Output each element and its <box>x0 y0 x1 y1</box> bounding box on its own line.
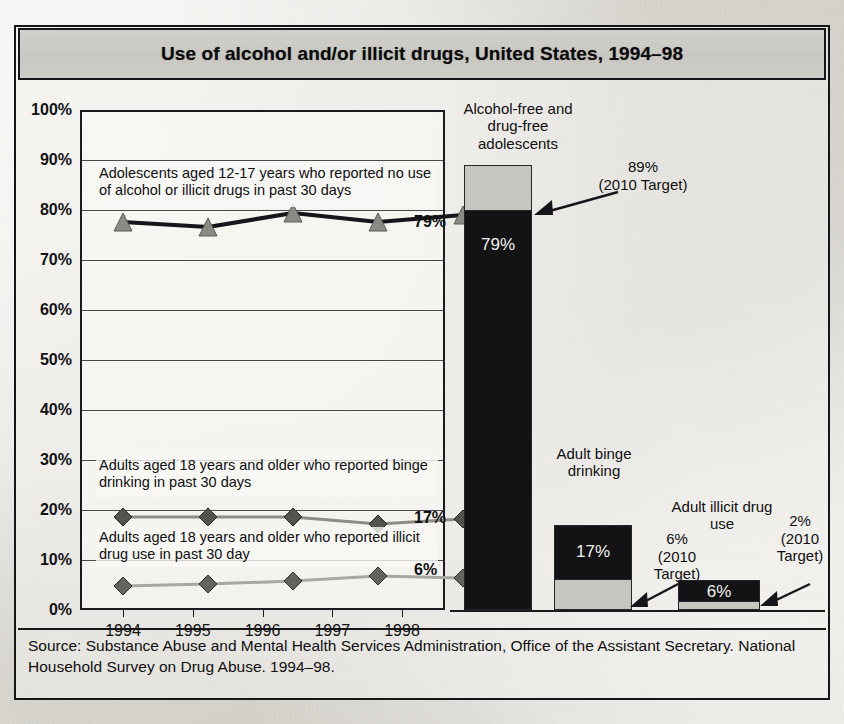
bar-caption-illicit: Adult illicit drug use <box>670 498 774 533</box>
bar-binge-value: 17% <box>554 525 632 580</box>
bar-illicit-target-value: 2% <box>764 512 836 530</box>
annotation-illicit: Adults aged 18 years and older who repor… <box>96 527 438 567</box>
marker-adolescent-1995 <box>199 218 217 236</box>
marker-illicit-1994 <box>114 577 132 595</box>
y-axis-label-0: 0% <box>2 601 72 619</box>
annotation-binge-text: Adults aged 18 years and older who repor… <box>99 457 428 490</box>
annotation-illicit-text: Adults aged 18 years and older who repor… <box>99 529 420 562</box>
bar-binge-value-label: 17% <box>555 542 631 562</box>
y-axis-label-40: 40% <box>2 401 72 419</box>
marker-binge-1994 <box>114 508 132 526</box>
arrow-adolescent-target <box>528 188 620 218</box>
bar-illicit-value: 6% <box>678 580 760 602</box>
annotation-adolescent-text: Adolescents aged 12-17 years who reporte… <box>99 165 431 198</box>
arrow-illicit-target <box>750 578 812 610</box>
bar-adolescent-value-label: 79% <box>465 235 531 255</box>
source-divider <box>18 628 826 630</box>
bar-illicit-value-label: 6% <box>679 582 759 602</box>
bar-illicit-target-year: (2010 <box>764 530 836 548</box>
bar-illicit-target-note: 2% (2010 Target) <box>764 512 836 565</box>
end-label-binge: 17% <box>414 509 446 527</box>
end-label-adolescent: 79% <box>414 213 446 231</box>
arrow-binge-target <box>620 575 682 611</box>
bar-adolescent-target-value: 89% <box>568 158 718 176</box>
y-axis-label-80: 80% <box>2 201 72 219</box>
y-axis-label-100: 100% <box>2 101 72 119</box>
marker-adolescent-1994 <box>114 213 132 231</box>
annotation-binge: Adults aged 18 years and older who repor… <box>96 455 438 497</box>
source-note: Source: Substance Abuse and Mental Healt… <box>28 636 818 678</box>
bar-adolescent-value: 79% <box>464 210 532 610</box>
bar-illicit-target-word: Target) <box>764 547 836 565</box>
marker-binge-1995 <box>199 508 217 526</box>
y-axis-label-90: 90% <box>2 151 72 169</box>
annotation-adolescent: Adolescents aged 12-17 years who reporte… <box>96 163 438 207</box>
y-axis-label-20: 20% <box>2 501 72 519</box>
end-label-illicit: 6% <box>414 561 437 579</box>
marker-illicit-1996 <box>284 572 302 590</box>
marker-illicit-1995 <box>199 575 217 593</box>
bar-caption-binge: Adult binge drinking <box>546 445 642 480</box>
bar-caption-adolescent: Alcohol-free and drug-free adolescents <box>458 100 578 152</box>
marker-illicit-1997 <box>369 567 387 585</box>
bar-binge-target-year: (2010 <box>640 548 714 566</box>
y-axis-label-50: 50% <box>2 351 72 369</box>
y-axis-label-70: 70% <box>2 251 72 269</box>
y-axis-label-10: 10% <box>2 551 72 569</box>
bar-binge-target-value: 6% <box>640 530 714 548</box>
y-axis-label-60: 60% <box>2 301 72 319</box>
marker-adolescent-1997 <box>369 213 387 231</box>
chart-title-bar: Use of alcohol and/or illicit drugs, Uni… <box>18 28 826 80</box>
marker-binge-1996 <box>284 508 302 526</box>
y-axis-label-30: 30% <box>2 451 72 469</box>
page-title: Use of alcohol and/or illicit drugs, Uni… <box>161 43 683 65</box>
